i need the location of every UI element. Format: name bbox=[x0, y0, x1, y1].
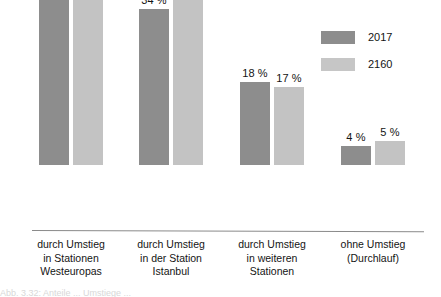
legend-swatch-icon bbox=[321, 58, 355, 71]
bar-rect bbox=[341, 146, 371, 165]
bar-rect bbox=[274, 87, 304, 165]
bar-rect bbox=[139, 9, 169, 165]
bar-value-label: 18 % bbox=[242, 67, 267, 79]
chart-legend: 2017 2160 bbox=[321, 30, 392, 84]
legend-label: 2017 bbox=[368, 31, 392, 44]
legend-swatch-icon bbox=[321, 31, 355, 44]
bar-value-label: 5 % bbox=[380, 126, 399, 138]
bar-2017-cat1[interactable]: 34 % bbox=[139, 9, 169, 165]
category-label-line: in weiteren bbox=[227, 252, 317, 266]
category-label-line: in Stationen bbox=[26, 252, 116, 266]
legend-label: 2160 bbox=[368, 58, 392, 71]
bar-group-2-bars: 18 % 17 % bbox=[227, 0, 317, 165]
bar-value-label: 4 % bbox=[346, 131, 365, 143]
category-label-1: durch Umstieg in der Station Istanbul bbox=[126, 238, 216, 279]
bar-group-0: 44 % 40 % bbox=[26, 0, 116, 165]
x-axis-line bbox=[32, 230, 424, 232]
bar-value-label: 17 % bbox=[276, 72, 301, 84]
category-label-2: durch Umstieg in weiteren Stationen bbox=[227, 238, 317, 279]
category-label-line: Stationen bbox=[227, 265, 317, 279]
bar-rect bbox=[39, 0, 69, 165]
bar-rect bbox=[173, 0, 203, 165]
category-label-line: durch Umstieg bbox=[227, 238, 317, 252]
caption-fragment: Abb. 3.32: Anteile ... Umstiege ... bbox=[0, 288, 441, 297]
bar-group-0-bars: 44 % 40 % bbox=[26, 0, 116, 165]
bar-value-label: 34 % bbox=[141, 0, 166, 6]
bar-group-1: 34 % 38 % bbox=[126, 0, 216, 165]
bar-rect bbox=[73, 0, 103, 165]
category-label-line: durch Umstieg bbox=[126, 238, 216, 252]
bar-group-2: 18 % 17 % bbox=[227, 0, 317, 165]
category-label-line: Istanbul bbox=[126, 265, 216, 279]
bar-2160-cat0[interactable]: 40 % bbox=[73, 0, 103, 165]
bar-2160-cat3[interactable]: 5 % bbox=[375, 141, 405, 165]
bar-chart: 44 % 40 % 34 % 38 % bbox=[0, 0, 441, 297]
category-label-line: (Durchlauf) bbox=[328, 252, 418, 266]
bar-2017-cat3[interactable]: 4 % bbox=[341, 146, 371, 165]
category-label-line: ohne Umstieg bbox=[328, 238, 418, 252]
category-label-line: Westeuropas bbox=[26, 265, 116, 279]
category-label-line: in der Station bbox=[126, 252, 216, 266]
bar-group-1-bars: 34 % 38 % bbox=[126, 0, 216, 165]
bar-2160-cat2[interactable]: 17 % bbox=[274, 87, 304, 165]
bar-rect bbox=[240, 82, 270, 165]
category-label-0: durch Umstieg in Stationen Westeuropas bbox=[26, 238, 116, 279]
bar-2017-cat0[interactable]: 44 % bbox=[39, 0, 69, 165]
legend-item-2017[interactable]: 2017 bbox=[321, 30, 392, 44]
legend-item-2160[interactable]: 2160 bbox=[321, 57, 392, 71]
category-label-3: ohne Umstieg (Durchlauf) bbox=[328, 238, 418, 265]
bar-2017-cat2[interactable]: 18 % bbox=[240, 82, 270, 165]
bar-rect bbox=[375, 141, 405, 165]
category-label-line: durch Umstieg bbox=[26, 238, 116, 252]
bar-2160-cat1[interactable]: 38 % bbox=[173, 0, 203, 165]
